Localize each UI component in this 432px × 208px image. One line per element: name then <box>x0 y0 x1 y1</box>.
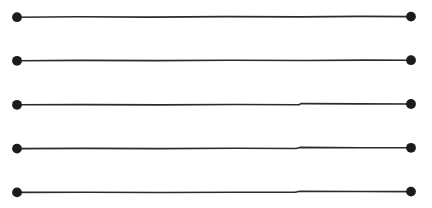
segment-2 <box>17 60 411 61</box>
segment-1-left-dot <box>12 12 22 22</box>
segment-2-right-dot <box>406 55 416 65</box>
segment-4-left-dot <box>12 144 22 154</box>
segment-3-left-dot <box>12 100 22 110</box>
segment-1 <box>17 16 411 17</box>
segment-1-right-dot <box>406 12 416 22</box>
segment-2-left-dot <box>12 56 22 66</box>
figure-canvas <box>0 0 432 208</box>
segment-5-left-dot <box>12 188 22 198</box>
line-segments-figure <box>0 0 432 208</box>
segment-3-right-dot <box>406 99 416 109</box>
segment-4-right-dot <box>406 143 416 153</box>
segment-5-right-dot <box>406 187 416 197</box>
